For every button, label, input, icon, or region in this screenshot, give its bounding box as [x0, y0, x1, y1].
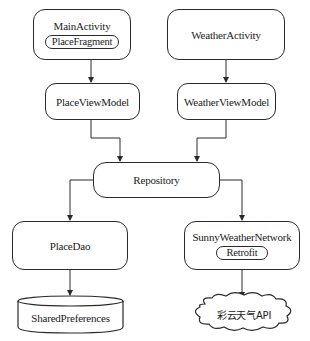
edge-placeviewmodel-repository: [91, 120, 120, 161]
repository-node: Repository: [93, 162, 220, 198]
main-activity-label: MainActivity: [54, 20, 111, 32]
place-dao-node: PlaceDao: [12, 221, 128, 270]
place-view-model-label: PlaceViewModel: [56, 96, 129, 108]
weather-view-model-label: WeatherViewModel: [184, 96, 269, 108]
architecture-diagram: MainActivity PlaceFragment WeatherActivi…: [0, 0, 310, 341]
caiyun-api-node: 彩云天气API: [200, 302, 288, 326]
place-dao-label: PlaceDao: [50, 240, 91, 252]
edge-repository-network: [220, 180, 242, 220]
edge-weatherviewmodel-repository: [197, 120, 226, 161]
caiyun-api-label: 彩云天气API: [217, 307, 271, 322]
place-view-model-node: PlaceViewModel: [45, 83, 140, 120]
sunny-weather-network-label: SunnyWeatherNetwork: [192, 231, 291, 243]
weather-view-model-node: WeatherViewModel: [177, 83, 276, 120]
weather-activity-node: WeatherActivity: [167, 9, 285, 60]
shared-preferences-node: SharedPreferences: [18, 306, 123, 330]
place-fragment-node: PlaceFragment: [45, 35, 119, 49]
weather-activity-label: WeatherActivity: [191, 29, 260, 41]
edge-repository-placedao: [70, 180, 93, 220]
main-activity-node: MainActivity PlaceFragment: [33, 9, 131, 60]
sunny-weather-network-node: SunnyWeatherNetwork Retrofit: [184, 221, 300, 270]
retrofit-node: Retrofit: [216, 246, 267, 260]
repository-label: Repository: [133, 174, 179, 186]
shared-preferences-label: SharedPreferences: [31, 312, 109, 324]
